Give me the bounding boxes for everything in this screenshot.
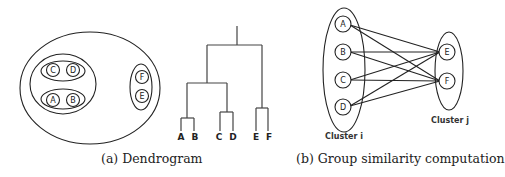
dendrogram-leaf-labels: A B C D E F — [178, 132, 273, 142]
leaf-label-f: F — [266, 132, 272, 142]
caption-b: (b) Group similarity computation — [296, 151, 505, 166]
ab-cluster-ellipse — [41, 89, 85, 109]
cluster-i-label-c: C — [340, 76, 346, 85]
cluster-j-label-e: E — [444, 48, 449, 57]
node-f-label: F — [140, 73, 145, 82]
cluster-i-label-b: B — [340, 48, 346, 57]
cluster-j-label-f: F — [445, 77, 450, 86]
leaf-label-d: D — [229, 132, 236, 142]
node-c-label: C — [50, 66, 56, 75]
edge-c-f — [350, 80, 440, 81]
node-a-label: A — [50, 96, 56, 105]
node-d-label: D — [70, 66, 76, 75]
node-e-label: E — [139, 92, 144, 101]
cluster-i-label-a: A — [340, 20, 346, 29]
cluster-j-title: Cluster j — [431, 116, 469, 125]
abcd-cluster-ellipse — [30, 54, 96, 114]
caption-a: (a) Dendrogram — [101, 151, 202, 166]
leaf-label-e: E — [253, 132, 259, 142]
edge-d-e — [350, 52, 440, 106]
cd-cluster-ellipse — [41, 61, 85, 81]
cluster-i-label-d: D — [340, 103, 346, 112]
leaf-label-b: B — [192, 132, 199, 142]
leaf-label-c: C — [216, 132, 223, 142]
edge-a-f — [350, 25, 440, 81]
cluster-i-title: Cluster i — [325, 132, 363, 141]
nested-cluster-diagram — [20, 32, 160, 144]
node-b-label: B — [70, 96, 76, 105]
leaf-label-a: A — [178, 132, 185, 142]
outer-cluster-ellipse — [20, 32, 160, 144]
dendrogram-tree — [181, 26, 268, 131]
